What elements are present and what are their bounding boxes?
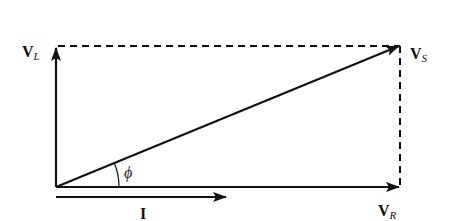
vs-label-main: V	[410, 45, 422, 62]
vl-label-sub: L	[34, 50, 40, 62]
angle-label: ϕ	[124, 165, 132, 181]
vr-label-sub: R	[390, 209, 397, 221]
vl-label-main: V	[22, 43, 34, 60]
vs-label: VS	[410, 46, 427, 64]
angle-arc	[114, 163, 119, 187]
vl-label: VL	[22, 44, 40, 62]
phasor-diagram: VL VS VR I ϕ	[0, 0, 455, 221]
vr-label: VR	[378, 203, 396, 221]
vr-label-main: V	[378, 202, 390, 219]
phasor-diagram-graphics	[0, 0, 455, 221]
vs-arrow	[56, 46, 399, 187]
vs-label-sub: S	[422, 52, 428, 64]
current-label: I	[140, 206, 146, 221]
